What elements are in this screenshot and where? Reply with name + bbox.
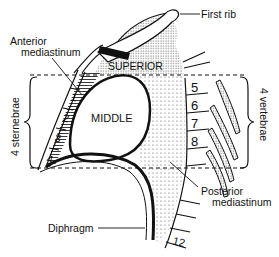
posterior-mediastinum-label-line1: Posterior [201,186,243,197]
vertebra-6: 6 [191,98,198,113]
posterior-mediastinum-label-line2: mediastinum [212,197,272,208]
diaphragm-label: Diphragm [48,223,94,234]
superior-label: SUPERIOR [108,61,163,72]
vertebra-8: 8 [191,134,198,149]
sternebrae-label: 4 sternebrae [10,97,21,156]
anterior-mediastinum-label-line2: mediastinum [21,47,81,58]
vertebra-5: 5 [191,80,198,95]
sternebrae-brace [24,77,38,168]
anterior-mediastinum-label-line1: Anterior [10,36,47,47]
vertebrae-brace [240,77,254,168]
vertebrae-label: 4 vertebrae [259,88,270,141]
vertebra-7: 7 [191,116,198,131]
ribs [206,80,240,197]
first-rib-label: First rib [201,9,236,20]
middle-label: MIDDLE [91,113,133,124]
